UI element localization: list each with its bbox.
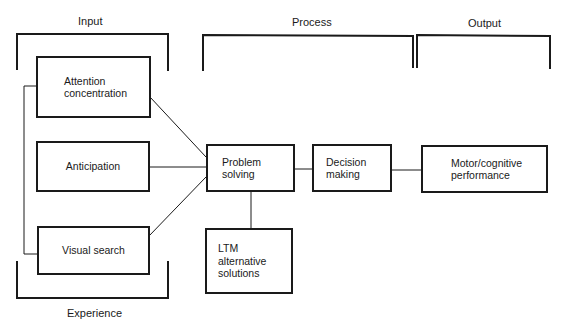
attention-line2: concentration — [64, 87, 127, 100]
ltm-line1: LTM — [218, 242, 266, 255]
motor-line1: Motor/cognitive — [451, 157, 522, 170]
attention-line1: Attention — [64, 75, 127, 88]
visual-search-box: Visual search — [37, 226, 150, 275]
problem-line1: Problem — [222, 156, 261, 169]
ltm-box: LTM alternative solutions — [205, 228, 293, 294]
problem-line2: solving — [222, 168, 261, 181]
attention-to-problem-connector — [150, 97, 206, 157]
attention-box: Attention concentration — [36, 56, 151, 118]
ltm-line3: solutions — [218, 267, 266, 280]
motor-line2: performance — [451, 169, 522, 182]
output-bracket — [417, 35, 550, 69]
anticipation-text: Anticipation — [66, 160, 120, 173]
input-label: Input — [78, 15, 102, 28]
problem-solving-box: Problem solving — [206, 144, 295, 192]
visual-to-problem-connector — [149, 177, 206, 236]
process-label: Process — [292, 16, 332, 29]
visual-search-text: Visual search — [62, 244, 125, 257]
ltm-line2: alternative — [218, 255, 266, 268]
decision-line2: making — [326, 168, 366, 181]
experience-label: Experience — [67, 307, 122, 320]
output-label: Output — [468, 17, 501, 30]
process-bracket — [203, 35, 413, 71]
anticipation-box: Anticipation — [36, 141, 150, 192]
decision-making-box: Decision making — [312, 144, 392, 192]
motor-cognitive-box: Motor/cognitive performance — [421, 145, 548, 193]
decision-line1: Decision — [326, 156, 366, 169]
